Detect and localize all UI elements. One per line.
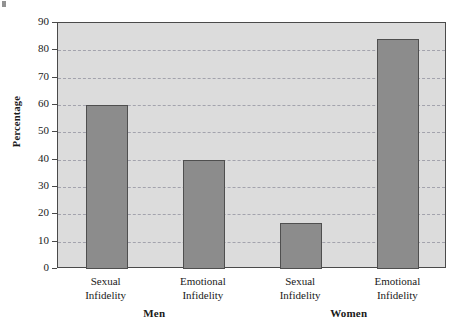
y-tick-label-10: 10 bbox=[19, 235, 49, 246]
x-category-label-line1: Emotional bbox=[337, 275, 455, 289]
bar bbox=[86, 105, 128, 269]
group-label-men: Men bbox=[84, 307, 224, 319]
y-axis-title: Percentage bbox=[11, 82, 22, 162]
group-label-women: Women bbox=[279, 307, 419, 319]
y-tick-label-70: 70 bbox=[19, 71, 49, 82]
x-category-label: EmotionalInfidelity bbox=[337, 275, 455, 302]
y-tick-label-30: 30 bbox=[19, 180, 49, 191]
y-tick-mark-0 bbox=[52, 268, 57, 269]
bar bbox=[280, 223, 322, 269]
scan-artifact bbox=[2, 1, 6, 7]
y-tick-label-80: 80 bbox=[19, 43, 49, 54]
y-tick-label-90: 90 bbox=[19, 16, 49, 27]
x-category-label-line2: Infidelity bbox=[337, 289, 455, 303]
bar bbox=[377, 39, 419, 269]
y-tick-label-60: 60 bbox=[19, 98, 49, 109]
y-tick-label-0: 0 bbox=[19, 262, 49, 273]
y-tick-label-40: 40 bbox=[19, 153, 49, 164]
y-tick-label-50: 50 bbox=[19, 125, 49, 136]
plot-area bbox=[57, 22, 446, 268]
y-tick-label-20: 20 bbox=[19, 207, 49, 218]
bars-container bbox=[58, 23, 445, 267]
bar bbox=[183, 160, 225, 269]
